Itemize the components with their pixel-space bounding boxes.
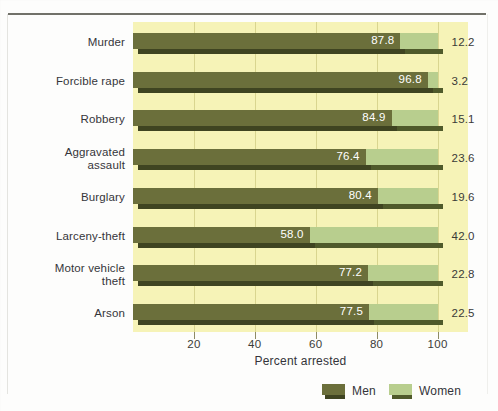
bar-face-women-5	[315, 243, 443, 248]
value-label-women-1: 3.2	[452, 75, 469, 87]
value-label-women-3: 23.6	[452, 152, 475, 164]
bar-segment-women-2	[392, 110, 438, 126]
bar-face-women-3	[371, 165, 443, 170]
category-label-4: Burglary	[81, 191, 125, 204]
bar-group-3: 76.4	[133, 149, 438, 170]
bar-segment-women-7	[369, 304, 438, 320]
legend-item-men: Men	[322, 384, 376, 399]
value-label-men-6: 77.2	[133, 266, 362, 278]
bar-face-women-0	[405, 49, 442, 54]
bar-face-men-7	[138, 320, 374, 325]
bar-face-men-1	[138, 88, 433, 93]
category-label-0: Murder	[88, 36, 125, 49]
bar-face-men-4	[138, 204, 383, 209]
top-rule-divider	[8, 13, 486, 15]
category-label-3: Aggravated assault	[65, 146, 125, 172]
bar-face-women-2	[397, 126, 443, 131]
value-label-women-6: 22.8	[452, 268, 475, 280]
bar-face-women-1	[433, 88, 443, 93]
value-label-women-4: 19.6	[452, 191, 475, 203]
bar-segment-women-1	[428, 72, 438, 88]
bar-segment-women-3	[366, 149, 438, 165]
women-swatch-icon	[389, 384, 412, 399]
x-tick-label-40: 40	[235, 338, 275, 350]
bar-group-4: 80.4	[133, 188, 438, 209]
x-tick-label-20: 20	[174, 338, 214, 350]
bar-segment-women-5	[310, 227, 438, 243]
bar-chart-figure: 20406080100Murder12.2Forcible rape3.2Rob…	[0, 0, 498, 411]
category-label-5: Larceny-theft	[56, 230, 125, 243]
legend-label-women: Women	[419, 384, 461, 398]
category-label-1: Forcible rape	[56, 75, 125, 88]
value-label-men-7: 77.5	[133, 305, 363, 317]
value-label-women-2: 15.1	[452, 113, 475, 125]
bar-group-7: 77.5	[133, 304, 438, 325]
bar-group-1: 96.8	[133, 72, 438, 93]
x-axis-title: Percent arrested	[133, 354, 468, 368]
value-label-men-4: 80.4	[133, 189, 372, 201]
bar-face-men-3	[138, 165, 371, 170]
bar-face-women-7	[374, 320, 443, 325]
value-label-men-2: 84.9	[133, 111, 386, 123]
bar-group-6: 77.2	[133, 265, 438, 286]
bar-face-men-2	[138, 126, 397, 131]
x-tick-label-100: 100	[418, 338, 458, 350]
chart-legend: Men Women	[322, 380, 461, 402]
bar-face-women-6	[373, 281, 442, 286]
bar-face-men-0	[138, 49, 405, 54]
category-label-6: Motor vehicle theft	[55, 262, 125, 288]
value-label-men-3: 76.4	[133, 150, 360, 162]
right-frame-line	[487, 14, 488, 394]
left-frame-line	[7, 14, 8, 394]
bar-segment-women-6	[368, 265, 437, 281]
bar-face-women-4	[383, 204, 443, 209]
bar-face-men-5	[138, 243, 315, 248]
value-label-men-0: 87.8	[133, 34, 394, 46]
value-label-men-5: 58.0	[133, 228, 304, 240]
bar-face-men-6	[138, 281, 373, 286]
value-label-women-7: 22.5	[452, 307, 475, 319]
bar-segment-women-4	[378, 188, 438, 204]
value-label-women-0: 12.2	[452, 36, 475, 48]
bar-segment-women-0	[400, 33, 437, 49]
legend-label-men: Men	[352, 384, 376, 398]
x-tick-label-80: 80	[357, 338, 397, 350]
category-label-2: Robbery	[80, 113, 125, 126]
men-swatch-icon	[322, 384, 345, 399]
x-tick-label-60: 60	[296, 338, 336, 350]
legend-item-women: Women	[389, 384, 461, 399]
value-label-women-5: 42.0	[452, 230, 475, 242]
bar-group-2: 84.9	[133, 110, 438, 131]
bar-group-5: 58.0	[133, 227, 438, 248]
value-label-men-1: 96.8	[133, 73, 422, 85]
category-label-7: Arson	[94, 307, 125, 320]
bar-group-0: 87.8	[133, 33, 438, 54]
